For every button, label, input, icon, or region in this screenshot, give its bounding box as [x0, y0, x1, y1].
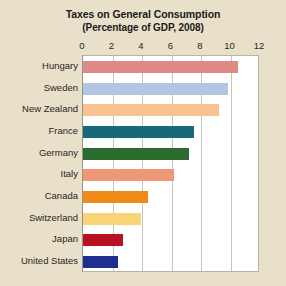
y-axis-category-labels: HungarySwedenNew ZealandFranceGermanyIta…	[0, 55, 78, 272]
plot-area	[82, 55, 259, 272]
chart-figure: Taxes on General Consumption (Percentage…	[0, 0, 286, 286]
category-label-france: France	[0, 125, 78, 137]
category-label-united-states: United States	[0, 255, 78, 267]
x-axis-tick-labels: 024681012	[0, 40, 286, 54]
bar-france	[83, 126, 194, 138]
x-tick-label-10: 10	[224, 40, 235, 51]
bar-germany	[83, 148, 189, 160]
bar-italy	[83, 169, 174, 181]
bars-layer	[83, 56, 258, 271]
category-label-japan: Japan	[0, 233, 78, 245]
chart-title-block: Taxes on General Consumption (Percentage…	[0, 8, 286, 34]
category-label-switzerland: Switzerland	[0, 212, 78, 224]
x-tick-label-12: 12	[254, 40, 265, 51]
x-tick-label-0: 0	[79, 40, 84, 51]
bar-united-states	[83, 256, 118, 268]
category-label-hungary: Hungary	[0, 60, 78, 72]
bar-japan	[83, 234, 123, 246]
bar-sweden	[83, 83, 228, 95]
category-label-sweden: Sweden	[0, 82, 78, 94]
bar-new-zealand	[83, 104, 219, 116]
x-tick-label-8: 8	[197, 40, 202, 51]
chart-subtitle: (Percentage of GDP, 2008)	[0, 21, 286, 34]
category-label-germany: Germany	[0, 147, 78, 159]
x-tick-label-4: 4	[138, 40, 143, 51]
bar-canada	[83, 191, 148, 203]
category-label-canada: Canada	[0, 190, 78, 202]
category-label-italy: Italy	[0, 168, 78, 180]
chart-title: Taxes on General Consumption	[0, 8, 286, 21]
category-label-new-zealand: New Zealand	[0, 103, 78, 115]
x-tick-label-6: 6	[168, 40, 173, 51]
bar-switzerland	[83, 213, 141, 225]
x-tick-label-2: 2	[109, 40, 114, 51]
bar-hungary	[83, 61, 238, 73]
